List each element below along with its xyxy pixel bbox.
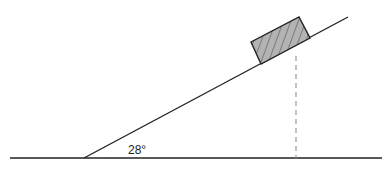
block <box>251 17 310 64</box>
angle-label: 28° <box>128 143 146 157</box>
inclined-plane-diagram: 28° <box>0 0 383 172</box>
